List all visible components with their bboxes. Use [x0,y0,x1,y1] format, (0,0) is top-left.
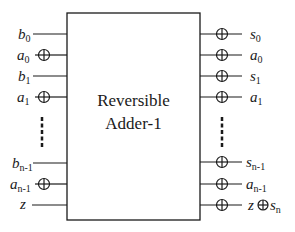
input-label-an-1: an-1 [10,176,31,194]
block-title-line2: Adder-1 [105,114,161,133]
svg-text:z: z [247,197,254,213]
svg-text:sn: sn [270,197,281,215]
xor-icon [217,50,228,61]
output-label-s0: s0 [250,26,261,44]
input-label-a1: a1 [17,89,30,107]
input-lines [32,34,67,205]
xor-icon [217,179,228,190]
xor-icon [217,157,228,168]
output-label-z-xor-sn: z sn [247,197,281,215]
xor-icon [39,92,50,103]
xor-icon [217,29,228,40]
input-label-b1: b1 [18,68,31,86]
xor-icon [217,200,228,211]
xor-icon [217,92,228,103]
output-label-a0: a0 [250,47,263,65]
input-label-z: z [19,196,26,212]
xor-icon [258,200,268,210]
output-label-sn-1: sn-1 [246,154,265,172]
input-label-b0: b0 [18,26,31,44]
reversible-adder-diagram: Reversible Adder-1 b0 a0 b1 a1 bn-1 an-1… [0,0,295,232]
block-title-line1: Reversible [97,91,170,110]
output-label-s1: s1 [250,68,261,86]
input-label-bn-1: bn-1 [12,155,33,173]
xor-icon [39,179,50,190]
input-label-a0: a0 [17,47,30,65]
xor-icon [39,50,50,61]
output-label-an-1: an-1 [246,176,267,194]
xor-icon [217,71,228,82]
output-label-a1: a1 [250,89,263,107]
